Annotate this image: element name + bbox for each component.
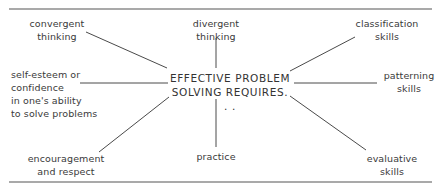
node-text: thinking — [186, 30, 246, 43]
node-text: evaluative — [360, 152, 424, 165]
node-text: thinking — [27, 30, 87, 43]
connector-encouragement — [99, 97, 169, 152]
node-text: skills — [360, 165, 424, 178]
central-concept-line1: EFFECTIVE PROBLEM — [168, 71, 292, 85]
node-text: and respect — [26, 165, 106, 178]
node-practice: practice — [186, 150, 246, 163]
node-evaluative-skills: evaluative skills — [360, 152, 424, 178]
connector-evaluative — [290, 96, 366, 150]
node-text: self-esteem or — [11, 68, 97, 81]
node-text: in one's ability — [11, 94, 97, 107]
node-text: convergent — [27, 17, 87, 30]
node-text: encouragement — [26, 152, 106, 165]
node-self-esteem: self-esteem or confidence in one's abili… — [11, 68, 97, 120]
connector-convergent — [86, 32, 167, 68]
node-encouragement-respect: encouragement and respect — [26, 152, 106, 178]
central-concept: EFFECTIVE PROBLEM SOLVING REQUIRES. . . — [168, 71, 292, 113]
node-text: skills — [347, 30, 427, 43]
connector-classification — [290, 37, 355, 71]
node-text: skills — [378, 82, 440, 95]
node-patterning-skills: patterning skills — [378, 69, 440, 95]
node-text: divergent — [186, 17, 246, 30]
node-text: to solve problems — [11, 107, 97, 120]
node-classification-skills: classification skills — [347, 17, 427, 43]
node-convergent-thinking: convergent thinking — [27, 17, 87, 43]
node-text: practice — [186, 150, 246, 163]
problem-solving-diagram: EFFECTIVE PROBLEM SOLVING REQUIRES. . . … — [0, 0, 444, 190]
central-concept-line2: SOLVING REQUIRES. . . — [168, 85, 292, 113]
node-divergent-thinking: divergent thinking — [186, 17, 246, 43]
node-text: confidence — [11, 81, 97, 94]
node-text: patterning — [378, 69, 440, 82]
node-text: classification — [347, 17, 427, 30]
